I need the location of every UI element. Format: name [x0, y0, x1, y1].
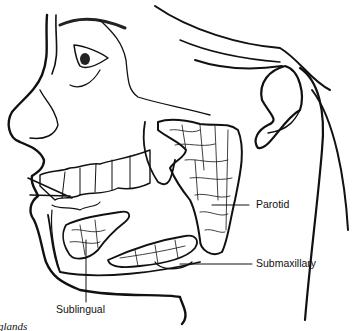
- parotid-label: Parotid: [256, 198, 289, 210]
- face-profile: [9, 15, 186, 324]
- upper-teeth: [40, 150, 150, 200]
- hair: [155, 6, 330, 90]
- parotid-gland: [158, 120, 242, 254]
- eye: [74, 45, 108, 68]
- caption-fragment: glands: [0, 320, 27, 331]
- head-illustration: [0, 0, 352, 331]
- submaxillary-gland: [108, 236, 197, 267]
- salivary-glands-diagram: Parotid Submaxillary Sublingual glands: [0, 0, 352, 331]
- submaxillary-label: Submaxillary: [256, 257, 316, 269]
- sublingual-gland: [63, 212, 129, 259]
- ear: [256, 66, 302, 148]
- sublingual-label: Sublingual: [56, 303, 105, 315]
